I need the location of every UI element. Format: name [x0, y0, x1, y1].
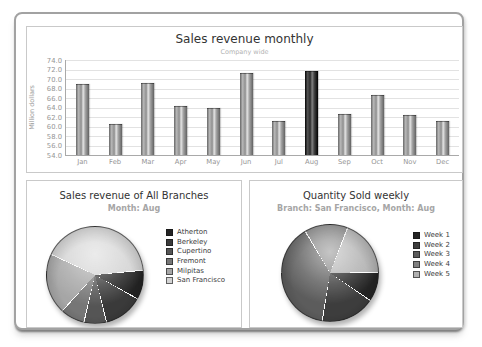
gridline	[66, 79, 459, 80]
gridline	[66, 70, 459, 71]
x-tick-label: Apr	[164, 158, 197, 166]
legend-label: Fremont	[177, 258, 206, 265]
legend-swatch-icon	[413, 232, 420, 239]
bar-chart-title: Sales revenue monthly	[27, 32, 462, 46]
x-tick-label: Mar	[132, 158, 165, 166]
legend-swatch-icon	[166, 239, 173, 246]
weekly-pie-subtitle: Branch: San Francisco, Month: Aug	[250, 204, 462, 213]
y-tick-label: 60.0	[36, 123, 62, 131]
legend-swatch-icon	[166, 229, 173, 236]
y-tick-label: 72.0	[36, 66, 62, 74]
legend-label: Week 1	[424, 232, 450, 239]
branch-pie-subtitle: Month: Aug	[27, 204, 241, 213]
legend-swatch-icon	[166, 268, 173, 275]
y-tick-label: 56.0	[36, 142, 62, 150]
gridline	[66, 108, 459, 109]
dashboard-screenshot: { "colors": { "frame_border": "#a2a2a2",…	[0, 0, 482, 347]
x-tick-label: Sep	[328, 158, 361, 166]
legend-swatch-icon	[413, 242, 420, 249]
legend-swatch-icon	[413, 271, 420, 278]
y-tick-label: 70.0	[36, 76, 62, 84]
weekly-quantity-pie-panel: Quantity Sold weekly Branch: San Francis…	[249, 180, 463, 328]
y-tick-label: 68.0	[36, 85, 62, 93]
gridline	[66, 60, 459, 61]
branch-pie-title: Sales revenue of All Branches	[27, 190, 241, 201]
y-tick-label: 62.0	[36, 114, 62, 122]
legend-label: Berkeley	[177, 239, 208, 246]
legend-item: Cupertino	[166, 247, 225, 257]
gridline	[66, 136, 459, 137]
legend-swatch-icon	[166, 248, 173, 255]
bar-chart-plot-area: 74.072.070.068.066.064.062.060.058.056.0…	[65, 60, 459, 156]
legend-item: Fremont	[166, 257, 225, 267]
legend-item: Milpitas	[166, 266, 225, 276]
y-tick-label: 54.0	[36, 152, 62, 160]
y-tick-label: 74.0	[36, 57, 62, 65]
bar-nov[interactable]	[403, 115, 416, 155]
bar-feb[interactable]	[109, 124, 122, 155]
legend-item: Atherton	[166, 228, 225, 238]
y-tick-label: 66.0	[36, 95, 62, 103]
branch-revenue-pie-chart[interactable]	[46, 226, 144, 324]
dashboard-frame: Sales revenue monthly Company wide Milli…	[14, 12, 464, 330]
legend-label: Atherton	[177, 229, 208, 236]
x-tick-label: Dec	[426, 158, 459, 166]
legend-item: Week 2	[413, 241, 450, 251]
legend-swatch-icon	[413, 261, 420, 268]
weekly-quantity-pie-chart[interactable]	[281, 224, 379, 322]
weekly-pie-legend: Week 1Week 2Week 3Week 4Week 5	[413, 231, 450, 279]
legend-item: Berkeley	[166, 238, 225, 248]
bar-jan[interactable]	[76, 84, 89, 155]
bar-jul[interactable]	[272, 121, 285, 155]
gridline	[66, 146, 459, 147]
bar-chart-panel: Sales revenue monthly Company wide Milli…	[26, 26, 463, 173]
x-tick-label: Nov	[394, 158, 427, 166]
x-tick-label: Jan	[66, 158, 99, 166]
legend-label: San Francisco	[177, 277, 225, 284]
legend-swatch-icon	[166, 277, 173, 284]
y-tick-label: 64.0	[36, 104, 62, 112]
x-tick-label: Jul	[263, 158, 296, 166]
x-tick-label: Feb	[99, 158, 132, 166]
bar-jun[interactable]	[240, 73, 253, 155]
y-axis-title-text: Million dollars	[28, 85, 36, 130]
bar-sep[interactable]	[338, 114, 351, 155]
gridline	[66, 117, 459, 118]
x-tick-label: Oct	[361, 158, 394, 166]
bar-mar[interactable]	[141, 83, 154, 155]
legend-label: Week 3	[424, 251, 450, 258]
legend-label: Week 5	[424, 271, 450, 278]
branch-revenue-pie-panel: Sales revenue of All Branches Month: Aug…	[26, 180, 242, 328]
bar-apr[interactable]	[174, 106, 187, 155]
legend-item: Week 5	[413, 269, 450, 279]
y-tick-label: 58.0	[36, 133, 62, 141]
weekly-pie-title: Quantity Sold weekly	[250, 190, 462, 201]
legend-item: San Francisco	[166, 276, 225, 286]
bar-oct[interactable]	[371, 95, 384, 155]
gridline	[66, 98, 459, 99]
bar-may[interactable]	[207, 108, 220, 155]
legend-swatch-icon	[166, 258, 173, 265]
bar-dec[interactable]	[436, 121, 449, 155]
legend-item: Week 3	[413, 250, 450, 260]
legend-label: Week 2	[424, 242, 450, 249]
legend-swatch-icon	[413, 251, 420, 258]
legend-label: Cupertino	[177, 248, 211, 255]
gridline	[66, 127, 459, 128]
x-tick-label: Jun	[230, 158, 263, 166]
bar-chart-subtitle: Company wide	[27, 48, 462, 56]
branch-pie-legend: AthertonBerkeleyCupertinoFremontMilpitas…	[166, 228, 225, 286]
x-tick-label: Aug	[295, 158, 328, 166]
x-tick-label: May	[197, 158, 230, 166]
legend-item: Week 4	[413, 260, 450, 270]
legend-label: Milpitas	[177, 268, 204, 275]
legend-item: Week 1	[413, 231, 450, 241]
gridline	[66, 89, 459, 90]
legend-label: Week 4	[424, 261, 450, 268]
bar-aug[interactable]	[305, 71, 318, 155]
